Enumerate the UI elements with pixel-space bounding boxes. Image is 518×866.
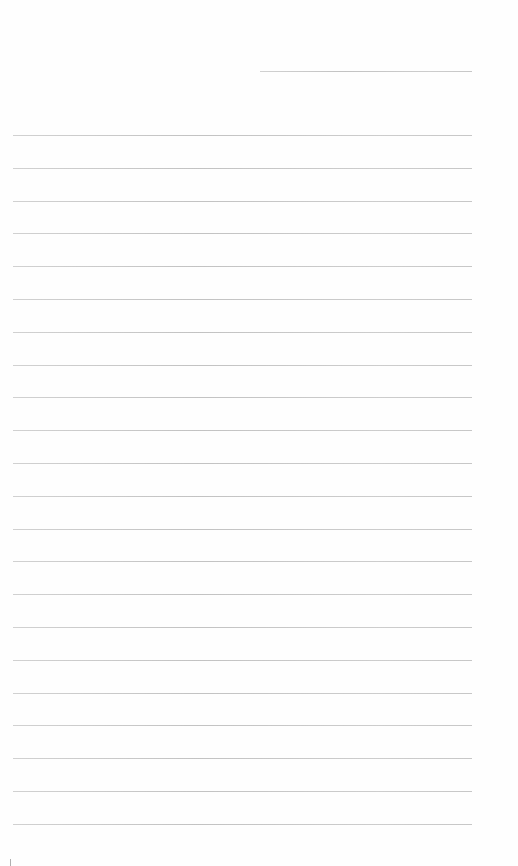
ruled-line [13, 496, 472, 497]
ruled-line [13, 660, 472, 661]
ruled-line [13, 168, 472, 169]
ruled-line [13, 791, 472, 792]
ruled-line [13, 201, 472, 202]
ruled-line [13, 397, 472, 398]
ruled-line [13, 266, 472, 267]
ruled-line [13, 529, 472, 530]
ruled-line [13, 430, 472, 431]
ruled-line [13, 233, 472, 234]
corner-mark [10, 859, 11, 866]
ruled-line [13, 758, 472, 759]
ruled-line [13, 824, 472, 825]
ruled-line [13, 463, 472, 464]
ruled-line [13, 365, 472, 366]
ruled-line [13, 332, 472, 333]
ruled-line [13, 693, 472, 694]
ruled-line [13, 135, 472, 136]
header-date-rule [260, 71, 472, 72]
ruled-line [13, 561, 472, 562]
lined-paper-page [0, 0, 518, 866]
ruled-line [13, 627, 472, 628]
ruled-line [13, 594, 472, 595]
ruled-line [13, 299, 472, 300]
ruled-line [13, 725, 472, 726]
